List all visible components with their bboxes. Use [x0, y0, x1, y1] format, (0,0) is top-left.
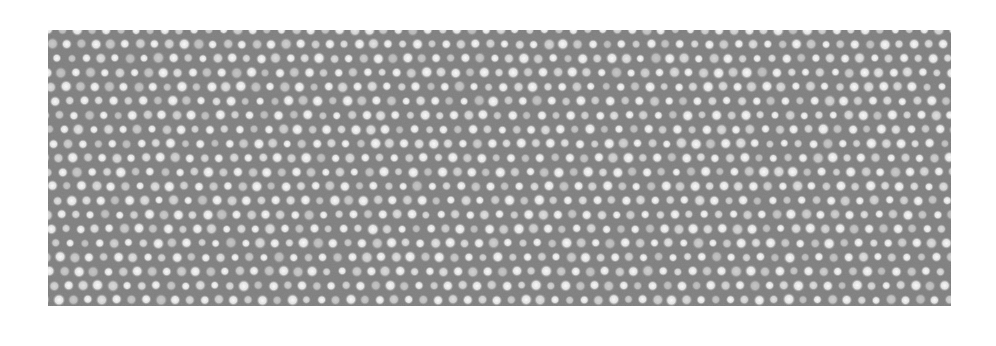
- noise-overlay: [48, 30, 951, 306]
- lattice-dots: [48, 30, 951, 306]
- atomic-lattice-micrograph: [48, 30, 951, 306]
